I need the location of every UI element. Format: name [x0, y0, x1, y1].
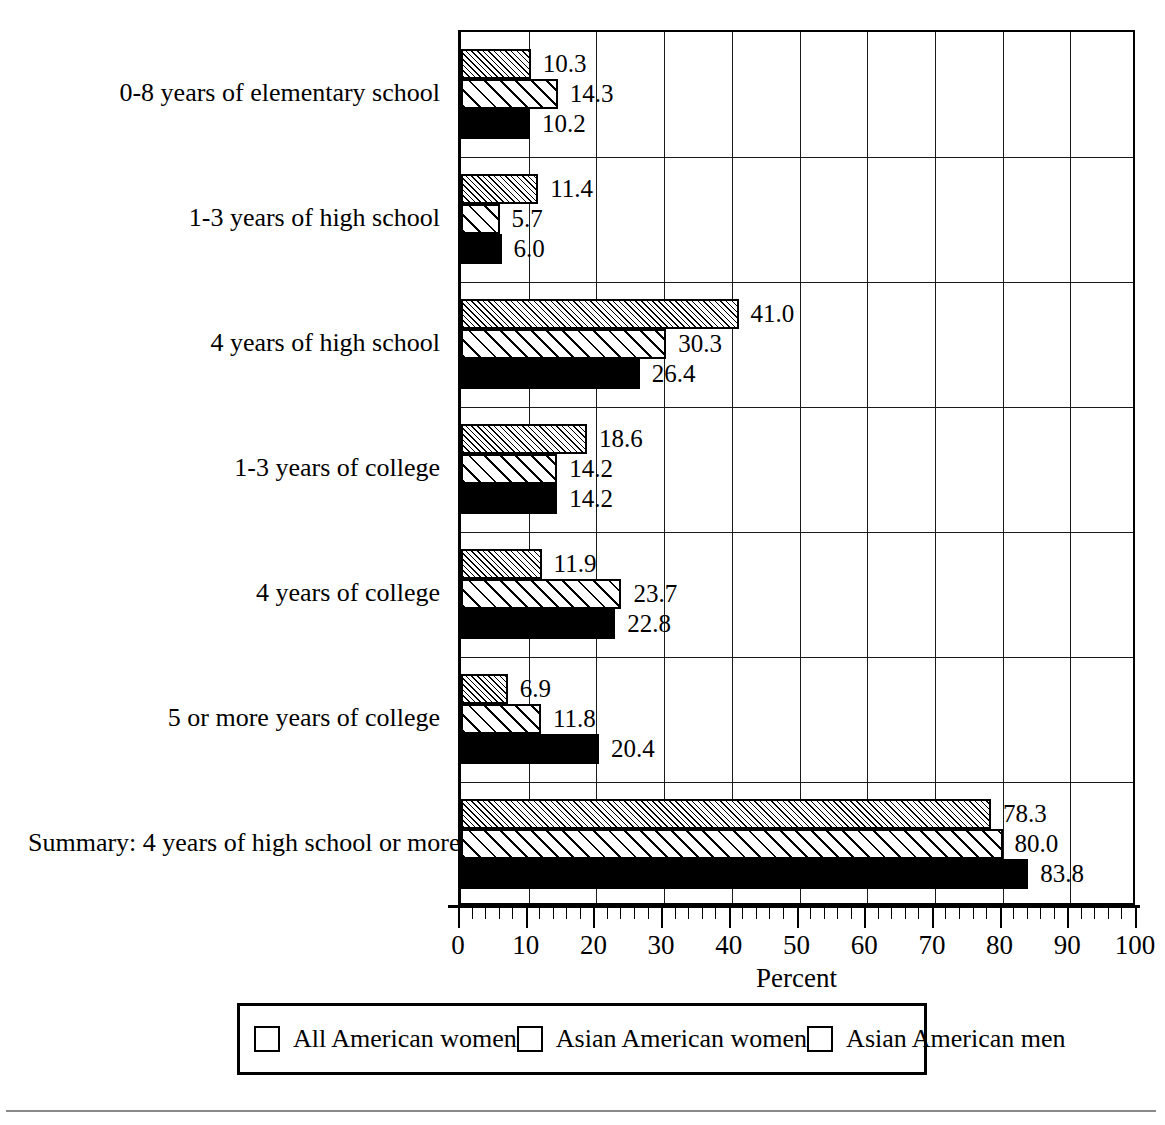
x-major-tick-90	[1067, 908, 1069, 928]
x-minor-tick	[742, 908, 743, 919]
x-tick-label: 10	[512, 929, 539, 961]
x-minor-tick	[905, 908, 906, 919]
x-minor-tick	[1094, 908, 1095, 919]
legend-entry: Asian American men	[807, 1024, 1066, 1054]
bar	[461, 609, 615, 639]
bar-value-label: 18.6	[587, 424, 643, 454]
category-label: Summary: 4 years of high school or more	[28, 828, 458, 858]
x-minor-tick	[973, 908, 974, 919]
x-minor-tick	[499, 908, 500, 919]
x-minor-tick	[851, 908, 852, 919]
bar-value-label: 41.0	[739, 299, 795, 329]
legend-entry: All American women	[254, 1024, 517, 1054]
x-major-tick-40	[729, 908, 731, 928]
x-tick-label: 40	[715, 929, 742, 961]
x-minor-tick	[986, 908, 987, 919]
bar-group: 10.314.310.2	[461, 32, 1133, 157]
bar-value-label: 30.3	[666, 329, 722, 359]
legend-label: All American women	[293, 1024, 517, 1054]
bar-value-label: 11.8	[541, 704, 596, 734]
x-tick-label: 70	[918, 929, 945, 961]
x-minor-tick	[824, 908, 825, 919]
bar-value-label: 14.2	[557, 484, 613, 514]
x-minor-tick	[675, 908, 676, 919]
bar	[461, 329, 666, 359]
bar-value-label: 23.7	[621, 579, 677, 609]
x-minor-tick	[769, 908, 770, 919]
bar-value-label: 11.9	[542, 549, 597, 579]
x-major-tick-30	[661, 908, 663, 928]
x-minor-tick	[715, 908, 716, 919]
bar	[461, 204, 500, 234]
bar	[461, 829, 1003, 859]
bar	[461, 49, 531, 79]
bar	[461, 859, 1028, 889]
bar	[461, 109, 530, 139]
x-minor-tick	[620, 908, 621, 919]
category-label: 1-3 years of high school	[28, 203, 458, 233]
bar-value-label: 26.4	[640, 359, 696, 389]
bar-value-label: 11.4	[538, 174, 593, 204]
bar-chart-figure: 0-8 years of elementary school1-3 years …	[0, 0, 1165, 1125]
x-tick-label: 60	[851, 929, 878, 961]
x-tick-label: 50	[783, 929, 810, 961]
x-major-tick-60	[864, 908, 866, 928]
bar-value-label: 83.8	[1028, 859, 1084, 889]
legend-box: All American womenAsian American womenAs…	[237, 1003, 927, 1075]
bar	[461, 484, 557, 514]
x-major-tick-80	[1000, 908, 1002, 928]
x-minor-tick	[648, 908, 649, 919]
x-minor-tick	[1027, 908, 1028, 919]
x-minor-tick	[945, 908, 946, 919]
legend-swatch	[807, 1026, 833, 1052]
bar-value-label: 20.4	[599, 734, 655, 764]
x-minor-tick	[485, 908, 486, 919]
x-tick-label: 80	[986, 929, 1013, 961]
x-minor-tick	[1108, 908, 1109, 919]
x-major-tick-70	[932, 908, 934, 928]
category-label: 0-8 years of elementary school	[28, 78, 458, 108]
legend-entry: Asian American women	[517, 1024, 807, 1054]
legend-entries: All American womenAsian American womenAs…	[240, 1006, 924, 1072]
category-label: 4 years of college	[28, 578, 458, 608]
plot-area: 10.314.310.211.45.76.041.030.326.418.614…	[458, 30, 1135, 905]
bar	[461, 359, 640, 389]
bar	[461, 799, 991, 829]
x-major-tick-10	[526, 908, 528, 928]
x-axis-title: Percent	[458, 963, 1135, 994]
x-minor-tick	[512, 908, 513, 919]
x-major-tick-20	[593, 908, 595, 928]
x-minor-tick	[539, 908, 540, 919]
bar-value-label: 5.7	[500, 204, 543, 234]
x-major-tick-50	[797, 908, 799, 928]
bar	[461, 299, 739, 329]
bar	[461, 424, 587, 454]
x-tick-label: 0	[451, 929, 465, 961]
bar-value-label: 80.0	[1003, 829, 1059, 859]
bar-value-label: 22.8	[615, 609, 671, 639]
category-label: 5 or more years of college	[28, 703, 458, 733]
x-minor-tick	[566, 908, 567, 919]
bar	[461, 579, 621, 609]
x-major-tick-0	[458, 908, 460, 928]
x-minor-tick	[580, 908, 581, 919]
x-minor-tick	[1121, 908, 1122, 919]
bar-value-label: 6.0	[502, 234, 545, 264]
bar	[461, 454, 557, 484]
bar	[461, 734, 599, 764]
bar	[461, 549, 542, 579]
x-tick-label: 30	[648, 929, 675, 961]
bar-value-label: 10.2	[530, 109, 586, 139]
x-axis: 0102030405060708090100	[458, 905, 1135, 965]
bar-group: 11.45.76.0	[461, 157, 1133, 282]
bar-value-label: 10.3	[531, 49, 587, 79]
bar	[461, 174, 538, 204]
bar-value-label: 78.3	[991, 799, 1047, 829]
x-minor-tick	[634, 908, 635, 919]
x-minor-tick	[810, 908, 811, 919]
x-minor-tick	[959, 908, 960, 919]
bar-group: 6.911.820.4	[461, 657, 1133, 782]
legend-swatch	[254, 1026, 280, 1052]
x-minor-tick	[702, 908, 703, 919]
legend-label: Asian American women	[556, 1024, 807, 1054]
